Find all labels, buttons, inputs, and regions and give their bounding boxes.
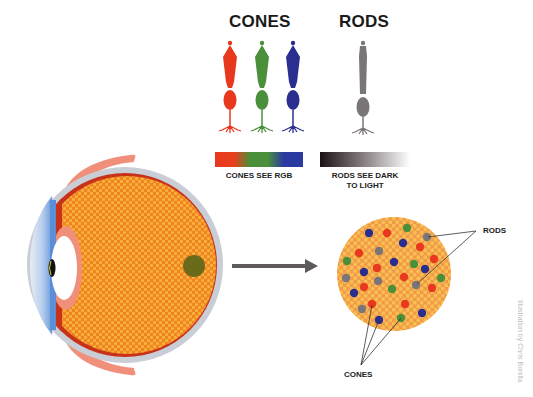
- fovea-spot: [183, 255, 205, 277]
- rods-caption: RODS SEE DARK TO LIGHT: [318, 171, 412, 191]
- dark-to-light-bar: [320, 152, 410, 167]
- red-cone-cell-icon: [219, 41, 241, 133]
- red-cone-dot: [383, 229, 391, 237]
- blue-cone-dot: [365, 229, 373, 237]
- green-cone-dot: [388, 285, 396, 293]
- rods-caption-line2: TO LIGHT: [318, 181, 412, 191]
- arrow-right-icon: [232, 259, 318, 273]
- blue-cone-dot: [399, 239, 407, 247]
- blue-cone-cell-icon: [282, 41, 304, 133]
- rods-heading: RODS: [339, 12, 389, 32]
- green-cone-dot: [403, 224, 411, 232]
- cones-caption: CONES SEE RGB: [209, 171, 309, 181]
- cones-heading: CONES: [229, 12, 290, 32]
- red-cone-dot: [401, 300, 409, 308]
- red-cone-dot: [355, 249, 363, 257]
- green-cone-dot: [410, 260, 418, 268]
- blue-cone-dot: [360, 268, 368, 276]
- illustration-credit: Illustration by Chris Bonilla: [517, 300, 524, 382]
- blue-cone-dot: [350, 289, 358, 297]
- green-cone-dot: [343, 257, 351, 265]
- red-cone-dot: [360, 283, 368, 291]
- rod-dot: [375, 247, 383, 255]
- green-cone-cell-icon: [251, 41, 273, 133]
- rgb-spectrum-bar: [215, 152, 303, 167]
- red-cone-dot: [373, 264, 381, 272]
- blue-cone-dot: [418, 309, 426, 317]
- red-cone-dot: [416, 243, 424, 251]
- rod-dot: [358, 305, 366, 313]
- red-cone-dot: [430, 255, 438, 263]
- eyeball-cross-section: [27, 155, 223, 376]
- photoreceptor-mosaic: [337, 217, 451, 331]
- blue-cone-dot: [390, 258, 398, 266]
- red-cone-dot: [428, 284, 436, 292]
- green-cone-dot: [437, 274, 445, 282]
- red-cone-dot: [400, 273, 408, 281]
- blue-cone-dot: [421, 265, 429, 273]
- rods-label: RODS: [483, 226, 506, 235]
- rod-dot: [374, 277, 382, 285]
- rods-caption-line1: RODS SEE DARK: [318, 171, 412, 181]
- eye-diagram: [0, 0, 533, 397]
- rod-cell-icon: [352, 41, 374, 135]
- cones-label: CONES: [344, 370, 372, 379]
- rod-dot: [342, 274, 350, 282]
